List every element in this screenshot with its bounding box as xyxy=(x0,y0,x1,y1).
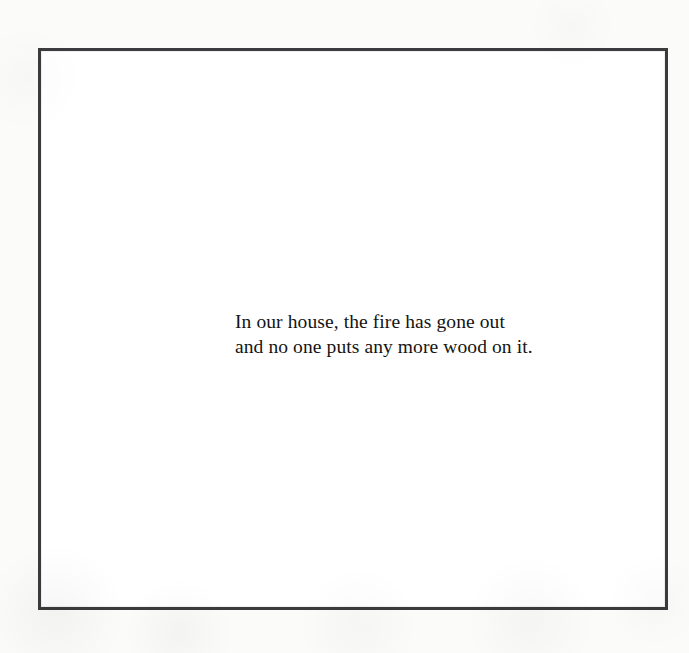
scanned-page: In our house, the fire has gone out and … xyxy=(0,0,689,653)
caption-line-1: In our house, the fire has gone out xyxy=(235,309,533,334)
bordered-plate: In our house, the fire has gone out and … xyxy=(38,48,668,610)
caption-text-block: In our house, the fire has gone out and … xyxy=(235,309,533,359)
caption-line-2: and no one puts any more wood on it. xyxy=(235,334,533,359)
